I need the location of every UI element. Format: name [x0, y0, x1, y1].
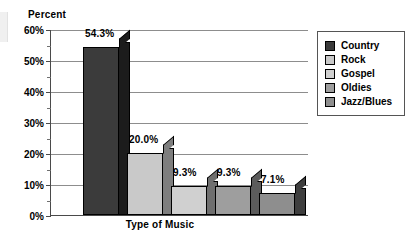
y-tick-major	[46, 216, 51, 217]
y-tick-label: 10%	[24, 180, 44, 191]
y-tick-label: 20%	[24, 149, 44, 160]
bar-value-label: 7.1%	[261, 174, 285, 185]
legend-item-label: Jazz/Blues	[341, 96, 392, 107]
legend-item-rock[interactable]: Rock	[325, 53, 398, 66]
y-tick-major	[46, 154, 51, 155]
y-tick-label: 30%	[24, 118, 44, 129]
legend-swatch-icon	[325, 83, 335, 93]
bar-jazz-blues[interactable]	[259, 184, 295, 215]
bar-gospel[interactable]	[171, 177, 207, 215]
legend-item-label: Rock	[341, 54, 365, 65]
bar-chart-figure: Percent 0%10%20%30%40%50%60% 54.3%20.0%9…	[0, 0, 417, 244]
bar-country[interactable]	[83, 38, 119, 215]
legend: CountryRockGospelOldiesJazz/Blues	[317, 31, 405, 116]
y-tick-major	[46, 30, 51, 31]
bar-value-label: 9.3%	[217, 167, 241, 178]
y-tick-major	[46, 92, 51, 93]
y-tick-label: 40%	[24, 87, 44, 98]
bar-front-face	[83, 47, 119, 215]
legend-item-label: Country	[341, 40, 379, 51]
bar-front-face	[127, 153, 163, 215]
legend-item-label: Oldies	[341, 82, 372, 93]
legend-swatch-icon	[325, 55, 335, 65]
y-axis-title: Percent	[28, 9, 66, 20]
y-tick-major	[46, 185, 51, 186]
bar-front-face	[215, 186, 251, 215]
bar-value-label: 20.0%	[129, 134, 158, 145]
y-tick-minor	[47, 170, 51, 171]
y-tick-major	[46, 61, 51, 62]
bar-front-face	[171, 186, 207, 215]
bar-value-label: 54.3%	[85, 28, 114, 39]
bar-rock[interactable]	[127, 144, 163, 215]
legend-item-label: Gospel	[341, 68, 375, 79]
scan-edge-artifact	[0, 12, 8, 42]
legend-swatch-icon	[325, 97, 335, 107]
y-tick-label: 60%	[24, 25, 44, 36]
y-tick-major	[46, 123, 51, 124]
y-tick-minor	[47, 108, 51, 109]
legend-item-oldies[interactable]: Oldies	[325, 81, 398, 94]
y-tick-label: 50%	[24, 56, 44, 67]
legend-item-jazz-blues[interactable]: Jazz/Blues	[325, 95, 398, 108]
y-tick-minor	[47, 201, 51, 202]
plot-area: 0%10%20%30%40%50%60% 54.3%20.0%9.3%9.3%7…	[50, 30, 308, 216]
legend-swatch-icon	[325, 41, 335, 51]
y-tick-minor	[47, 139, 51, 140]
y-tick-minor	[47, 46, 51, 47]
y-tick-minor	[47, 77, 51, 78]
legend-item-gospel[interactable]: Gospel	[325, 67, 398, 80]
bar-value-label: 9.3%	[173, 167, 197, 178]
x-axis-title: Type of Music	[0, 219, 320, 230]
bar-front-face	[259, 193, 295, 215]
bar-oldies[interactable]	[215, 177, 251, 215]
legend-swatch-icon	[325, 69, 335, 79]
legend-item-country[interactable]: Country	[325, 39, 398, 52]
